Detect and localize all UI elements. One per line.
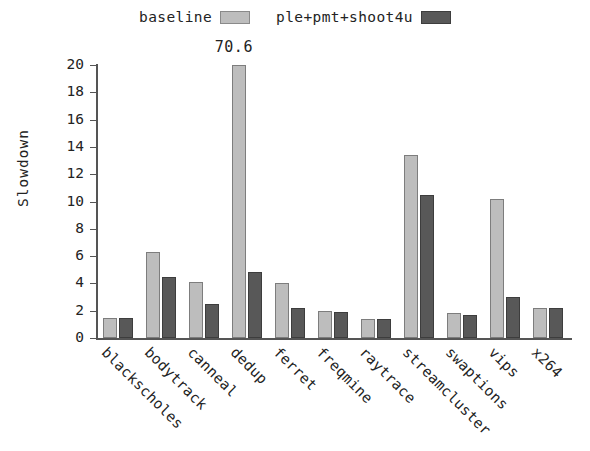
bar-freqmine-ple-pmt-shoot4u: [334, 312, 348, 338]
legend-swatch-treated: [421, 11, 451, 24]
bar-bodytrack-baseline: [146, 252, 160, 338]
bar-ferret-baseline: [275, 283, 289, 338]
bar-vips-ple-pmt-shoot4u: [506, 297, 520, 338]
y-tick-label: 0: [56, 329, 84, 345]
bar-bodytrack-ple-pmt-shoot4u: [162, 277, 176, 338]
bar-raytrace-baseline: [361, 319, 375, 338]
x-tick-label-dedup: dedup: [227, 344, 270, 387]
y-tick-label: 20: [56, 56, 84, 72]
bar-vips-baseline: [490, 199, 504, 338]
bar-streamcluster-baseline: [404, 155, 418, 338]
y-tick-label: 2: [56, 302, 84, 318]
bar-canneal-baseline: [189, 282, 203, 338]
chart-legend: baseline ple+pmt+shoot4u: [0, 4, 590, 30]
x-tick-label-vips: vips: [486, 344, 523, 381]
plot-area: 70.6: [96, 65, 570, 338]
bar-ferret-ple-pmt-shoot4u: [291, 308, 305, 338]
y-tick-label: 8: [56, 220, 84, 236]
bar-blackscholes-baseline: [103, 318, 117, 338]
x-axis-line: [96, 338, 572, 340]
legend-entry-baseline: baseline: [139, 9, 250, 25]
bar-streamcluster-ple-pmt-shoot4u: [420, 195, 434, 338]
bar-swaptions-ple-pmt-shoot4u: [463, 315, 477, 338]
legend-swatch-baseline: [220, 11, 250, 24]
y-tick-mark: [90, 338, 96, 339]
x-tick-label-ferret: ferret: [271, 344, 321, 394]
y-axis-title: Slowdown: [15, 108, 31, 228]
bar-x264-ple-pmt-shoot4u: [549, 308, 563, 338]
clipped-bar-value-label: 70.6: [215, 38, 253, 56]
bar-blackscholes-ple-pmt-shoot4u: [119, 318, 133, 338]
y-tick-label: 4: [56, 274, 84, 290]
legend-label-treated: ple+pmt+shoot4u: [276, 9, 413, 25]
bar-swaptions-baseline: [447, 313, 461, 338]
bar-x264-baseline: [533, 308, 547, 338]
y-tick-label: 12: [56, 165, 84, 181]
y-tick-label: 10: [56, 193, 84, 209]
y-tick-label: 16: [56, 111, 84, 127]
y-tick-label: 18: [56, 83, 84, 99]
x-tick-label-x264: x264: [529, 344, 566, 381]
x-tick-label-blackscholes: blackscholes: [98, 344, 186, 432]
bar-dedup-ple-pmt-shoot4u: [248, 272, 262, 338]
y-tick-label: 6: [56, 247, 84, 263]
legend-entry-treated: ple+pmt+shoot4u: [276, 9, 451, 25]
bar-freqmine-baseline: [318, 311, 332, 338]
bar-canneal-ple-pmt-shoot4u: [205, 304, 219, 338]
legend-label-baseline: baseline: [139, 9, 212, 25]
bar-raytrace-ple-pmt-shoot4u: [377, 319, 391, 338]
y-tick-label: 14: [56, 138, 84, 154]
bar-dedup-baseline: [232, 65, 246, 338]
